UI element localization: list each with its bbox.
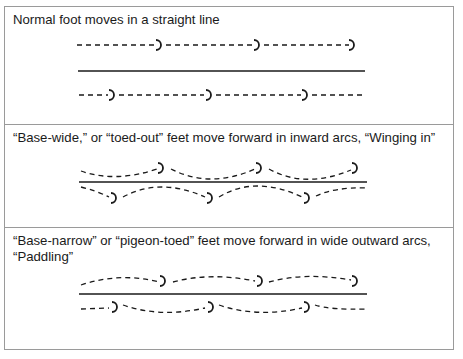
lower-track-path xyxy=(123,305,205,312)
hoofprint-icon xyxy=(352,163,357,173)
hoofprint-icon xyxy=(302,90,307,100)
upper-track-path xyxy=(81,278,159,285)
hoofprint-icon xyxy=(109,90,114,100)
lower-track-path xyxy=(316,188,367,196)
hoofprint-icon xyxy=(160,276,165,286)
upper-track-path xyxy=(171,169,255,179)
hoofprint-icon xyxy=(112,302,117,312)
normal-gait-illustration xyxy=(5,7,455,124)
lower-track-path xyxy=(219,186,302,197)
hoofprint-icon xyxy=(206,90,211,100)
panel-normal-gait: Normal foot moves in a straight line xyxy=(5,7,453,124)
hoofprint-icon xyxy=(256,163,261,173)
hoofprint-icon xyxy=(304,302,309,312)
hoofprint-icon xyxy=(257,276,262,286)
gait-diagram-table: Normal foot moves in a straight line “Ba… xyxy=(4,6,454,350)
lower-track-path xyxy=(81,308,109,309)
paddling-illustration xyxy=(5,228,455,351)
upper-track-path xyxy=(81,169,157,177)
hoofprint-icon xyxy=(158,163,163,173)
panel-paddling: “Base-narrow” or “pigeon-toed” feet move… xyxy=(5,227,453,350)
upper-track-path xyxy=(173,277,255,282)
lower-track-path xyxy=(219,305,302,312)
lower-track-path xyxy=(315,305,367,309)
upper-track-path xyxy=(269,169,351,179)
hoofprint-icon xyxy=(207,193,212,203)
hoofprint-icon xyxy=(111,193,116,203)
lower-track-path xyxy=(123,187,205,197)
winging-in-illustration xyxy=(5,125,455,228)
panel-winging-in: “Base-wide,” or “toed-out” feet move for… xyxy=(5,124,453,227)
hoofprint-icon xyxy=(156,40,161,50)
upper-track-path xyxy=(269,276,351,282)
hoofprint-icon xyxy=(208,302,213,312)
hoofprint-icon xyxy=(304,193,309,203)
hoofprint-icon xyxy=(349,40,354,50)
lower-track-path xyxy=(81,187,109,197)
hoofprint-icon xyxy=(254,40,259,50)
hoofprint-icon xyxy=(352,276,357,286)
